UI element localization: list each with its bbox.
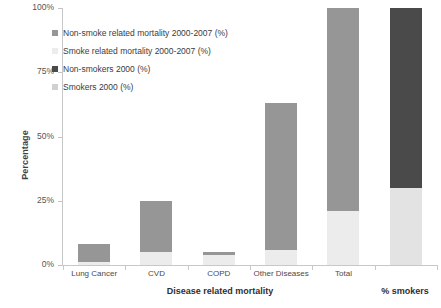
x-axis-separator — [63, 265, 64, 270]
x-axis-separator — [312, 265, 313, 270]
bar[interactable] — [265, 103, 297, 265]
bar-segment[interactable] — [265, 250, 297, 265]
bar-segment[interactable] — [265, 103, 297, 249]
y-tick-label: 0% — [18, 260, 54, 269]
x-tick-label: Total — [312, 270, 374, 279]
y-tick-label: 100% — [18, 3, 54, 12]
stacked-bar-chart: Percentage 100%75%50%25%0% Non-smoke rel… — [0, 0, 441, 308]
x-axis-separator — [188, 265, 189, 270]
bar-slot — [312, 8, 374, 265]
x-tick-label: Other Diseases — [250, 270, 312, 279]
legend-item-label: Smokers 2000 (%) — [63, 83, 133, 92]
bar-segment[interactable] — [390, 8, 422, 188]
bar[interactable] — [203, 252, 235, 265]
x-axis-separator — [375, 265, 376, 270]
x-axis-separator — [437, 265, 438, 270]
legend-item-label: Non-smoke related mortality 2000-2007 (%… — [63, 29, 228, 38]
bar-segment[interactable] — [78, 244, 110, 262]
bar-segment[interactable] — [140, 201, 172, 252]
x-axis-separator — [250, 265, 251, 270]
x-axis-title-primary: Disease related mortality — [90, 287, 350, 297]
bar-segment[interactable] — [140, 252, 172, 265]
legend-swatch-icon — [52, 30, 58, 36]
legend-item[interactable]: Non-smokers 2000 (%) — [52, 61, 282, 77]
bar-segment[interactable] — [327, 211, 359, 265]
x-axis-title-secondary: % smokers — [372, 287, 438, 297]
x-tick-label: Lung Cancer — [63, 270, 125, 279]
legend-item-label: Smoke related mortality 2000-2007 (%) — [63, 47, 211, 56]
bar[interactable] — [78, 244, 110, 265]
x-tick-label: CVD — [125, 270, 187, 279]
x-axis-separator — [125, 265, 126, 270]
bar-segment[interactable] — [203, 252, 235, 255]
chart-legend: Non-smoke related mortality 2000-2007 (%… — [52, 25, 282, 97]
legend-swatch-icon — [52, 66, 58, 72]
bar[interactable] — [390, 8, 422, 265]
legend-swatch-icon — [52, 48, 58, 54]
legend-swatch-icon — [52, 84, 58, 90]
bar-segment[interactable] — [327, 8, 359, 211]
bar-segment[interactable] — [78, 262, 110, 265]
legend-item[interactable]: Smokers 2000 (%) — [52, 79, 282, 95]
bar-slot — [375, 8, 437, 265]
legend-item-label: Non-smokers 2000 (%) — [63, 65, 150, 74]
legend-item[interactable]: Non-smoke related mortality 2000-2007 (%… — [52, 25, 282, 41]
y-tick-label: 50% — [18, 132, 54, 141]
bar-segment[interactable] — [390, 188, 422, 265]
bar[interactable] — [327, 8, 359, 265]
y-tick-label: 25% — [18, 196, 54, 205]
bar[interactable] — [140, 201, 172, 265]
y-tick-label: 75% — [18, 67, 54, 76]
bar-segment[interactable] — [203, 255, 235, 265]
legend-item[interactable]: Smoke related mortality 2000-2007 (%) — [52, 43, 282, 59]
y-axis-title: Percentage — [20, 100, 30, 210]
x-tick-label: COPD — [188, 270, 250, 279]
